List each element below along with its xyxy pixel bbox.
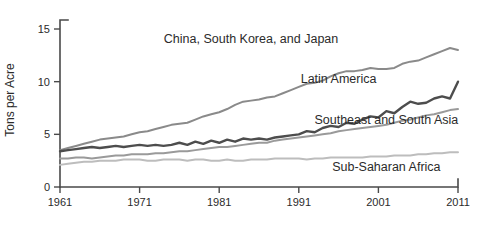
y-axis-ticks: 051015: [38, 23, 60, 193]
y-tick-label: 5: [44, 128, 50, 140]
x-tick-label: 2001: [366, 196, 390, 208]
y-axis-line: [60, 20, 68, 187]
x-tick-label: 2011: [446, 196, 470, 208]
x-tick-label: 1981: [207, 196, 231, 208]
series-label-latin-america: Latin America: [301, 72, 377, 86]
y-axis-title: Tons per Acre: [3, 63, 17, 137]
series-label-southeast-and-south-asia: Southeast and South Asia: [314, 113, 458, 127]
chart-series: [60, 48, 458, 165]
chart-canvas: 051015 196119711981199120012011 China, S…: [0, 0, 490, 232]
x-axis-line: [60, 179, 458, 187]
y-tick-label: 15: [38, 23, 50, 35]
y-tick-label: 0: [44, 181, 50, 193]
y-tick-label: 10: [38, 76, 50, 88]
series-label-china-south-korea-and-japan: China, South Korea, and Japan: [164, 32, 338, 46]
x-axis-ticks: 196119711981199120012011: [48, 187, 470, 208]
x-tick-label: 1971: [127, 196, 151, 208]
x-tick-label: 1961: [48, 196, 72, 208]
series-line-china-south-korea-and-japan: [60, 48, 458, 150]
series-label-sub-saharan-africa: Sub-Saharan Africa: [332, 160, 440, 174]
x-tick-label: 1991: [287, 196, 311, 208]
line-chart: 051015 196119711981199120012011 China, S…: [0, 0, 490, 232]
